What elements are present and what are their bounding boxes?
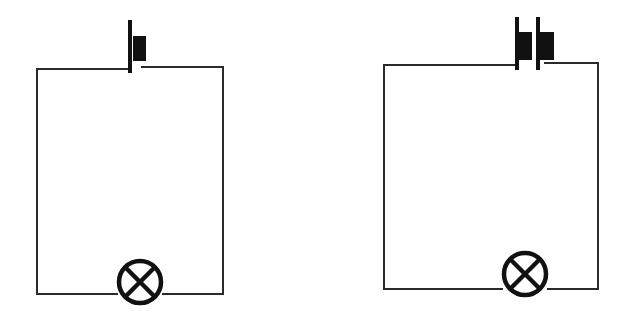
wire — [384, 63, 598, 289]
cell-icon — [515, 17, 532, 70]
wire — [37, 67, 223, 294]
circuit-two-cells — [384, 17, 598, 295]
lamp-icon — [119, 261, 161, 303]
lamp-icon — [504, 253, 546, 295]
circuit-diagram — [0, 0, 629, 317]
cell-icon — [128, 20, 146, 73]
circuit-one-cell — [37, 20, 223, 303]
